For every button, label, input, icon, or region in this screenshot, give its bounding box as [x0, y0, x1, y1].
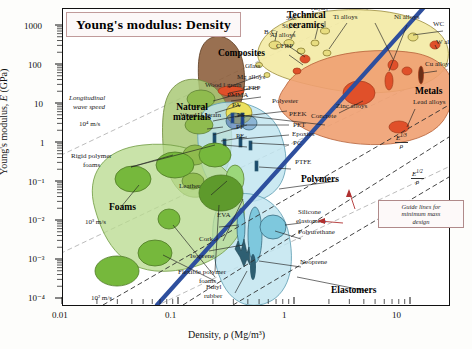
family-label-composites: Composites: [218, 49, 265, 59]
family-label-polymers: Polymers: [301, 175, 339, 185]
ashby-chart-young-modulus-density: Young's modulus, E (GPa) 1000 100 10 1 1…: [0, 0, 472, 349]
family-label-elastomers: Elastomers: [331, 286, 376, 296]
family-label-foams: Foams: [109, 203, 136, 213]
family-label-natural-materials: Naturalmaterials: [173, 103, 211, 123]
family-label-technical-ceramics: Technicalceramics: [287, 11, 326, 31]
guide-box-line3: design: [383, 218, 459, 225]
chart-title-box: Young's modulus: Density: [66, 12, 241, 37]
guide-lines-box: Guide lines for minimum mass design: [378, 200, 464, 228]
family-label-metals: Metals: [415, 87, 442, 97]
guide-box-line2: minimum mass: [383, 210, 459, 217]
guide-box-line1: Guide lines for: [383, 203, 459, 210]
chart-title: Young's modulus: Density: [76, 17, 231, 32]
